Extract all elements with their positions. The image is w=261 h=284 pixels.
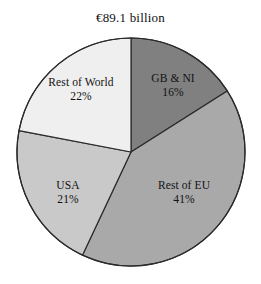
slice-label-rest-of-world: Rest of World 22% [26,76,136,103]
slice-label-rest-of-eu-value: 41% [141,193,227,207]
pie-chart-figure: €89.1 billion GB & NI 16% Rest of EU 41%… [0,0,261,284]
slice-label-usa: USA 21% [30,179,106,206]
pie-chart-svg [0,0,261,284]
slice-label-rest-of-eu-name: Rest of EU [141,179,227,193]
slice-label-rest-of-world-name: Rest of World [26,76,136,90]
slice-label-gb-ni: GB & NI 16% [131,72,215,99]
slice-label-rest-of-eu: Rest of EU 41% [141,179,227,206]
slice-label-usa-value: 21% [30,193,106,207]
slice-label-gb-ni-name: GB & NI [131,72,215,86]
slice-label-usa-name: USA [30,179,106,193]
slice-label-gb-ni-value: 16% [131,86,215,100]
slice-label-rest-of-world-value: 22% [26,90,136,104]
